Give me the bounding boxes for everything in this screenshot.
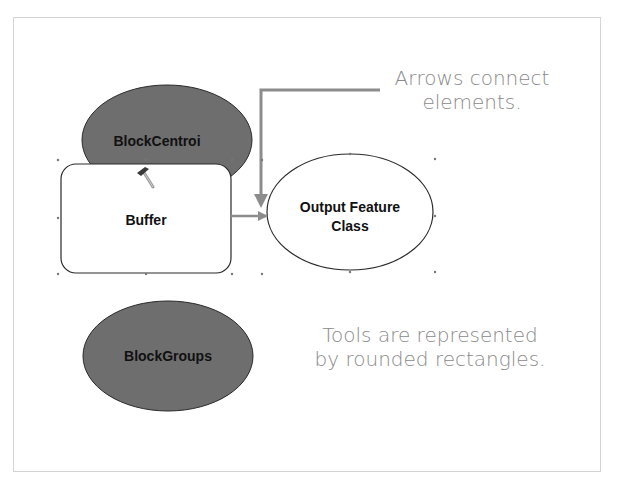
arrows-callout: Arrows connect elements.: [372, 66, 572, 114]
block-groups-label: BlockGroups: [124, 348, 212, 364]
output-label-line1: Output Feature: [300, 199, 401, 215]
arrows-callout-line2: elements.: [372, 90, 572, 114]
tools-callout-line1: Tools are represented: [300, 323, 560, 347]
buffer-label: Buffer: [125, 212, 167, 228]
buffer-tool-node[interactable]: Buffer: [61, 164, 231, 273]
output-feature-class-node[interactable]: Output Feature Class: [267, 154, 433, 270]
block-groups-node[interactable]: BlockGroups: [83, 301, 253, 411]
block-centroi-label: BlockCentroi: [113, 133, 200, 149]
tools-callout-line2: by rounded rectangles.: [300, 347, 560, 371]
output-label-line2: Class: [331, 218, 369, 234]
tools-callout: Tools are represented by rounded rectang…: [300, 323, 560, 371]
arrows-callout-line1: Arrows connect: [372, 66, 572, 90]
